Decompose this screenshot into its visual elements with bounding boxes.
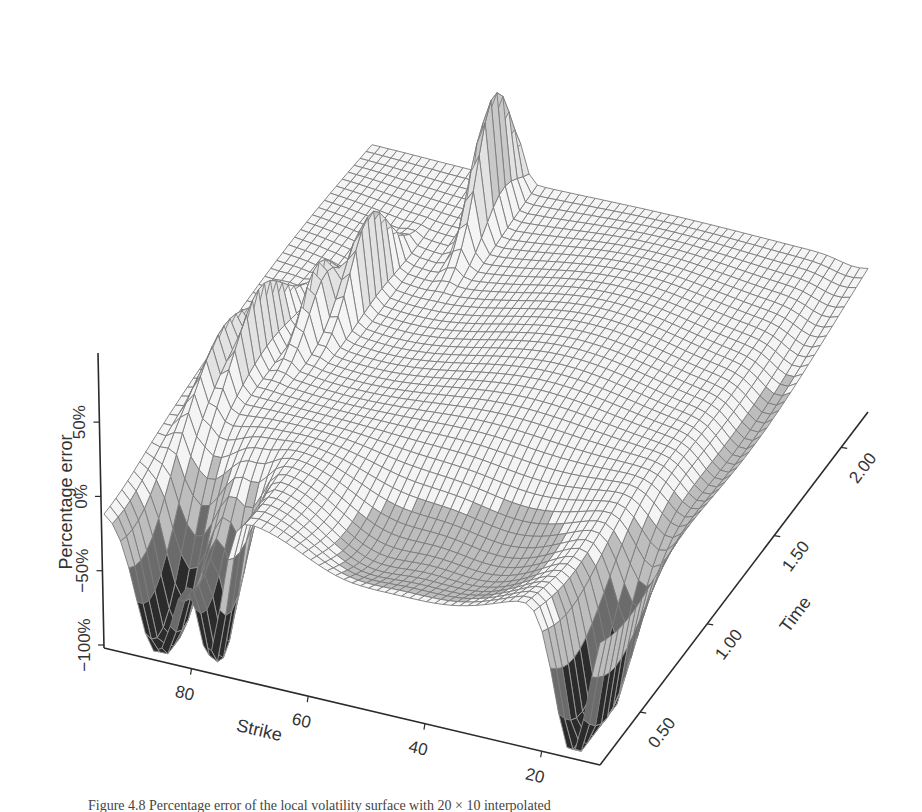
surface-plot-figure: 50%0%−50%−100% Percentage error 80604020…	[0, 0, 922, 812]
x-tick-label: 60	[290, 709, 313, 732]
x-axis-ticks: 80604020	[173, 669, 546, 788]
y-tick-label: 1.00	[711, 626, 746, 664]
x-tick-label: 40	[407, 737, 430, 760]
x-tick-label: 80	[173, 682, 196, 705]
z-axis-line	[98, 353, 104, 648]
x-axis-title: Strike	[235, 715, 284, 745]
y-tick-label: 0.50	[644, 714, 679, 752]
y-axis-title: Time	[775, 593, 815, 636]
x-tick	[541, 751, 542, 757]
surface-mesh	[104, 93, 868, 752]
z-tick-label: 50%	[70, 405, 89, 439]
y-tick-label: 1.50	[778, 537, 813, 575]
x-tick	[424, 724, 425, 730]
surface-plot: 50%0%−50%−100% Percentage error 80604020…	[0, 0, 922, 812]
x-tick	[191, 669, 192, 675]
z-axis-title: Percentage error	[56, 434, 76, 569]
x-tick-label: 20	[524, 764, 547, 787]
y-tick	[640, 712, 646, 713]
y-tick	[841, 447, 847, 448]
y-tick-label: 2.00	[845, 449, 880, 487]
x-tick	[307, 696, 308, 702]
z-tick-label: −50%	[73, 549, 92, 593]
x-axis-line	[104, 648, 600, 765]
z-tick-label: −100%	[75, 618, 94, 671]
y-tick	[707, 624, 713, 625]
figure-caption: Figure 4.8 Percentage error of the local…	[88, 798, 868, 812]
y-tick	[774, 536, 780, 537]
